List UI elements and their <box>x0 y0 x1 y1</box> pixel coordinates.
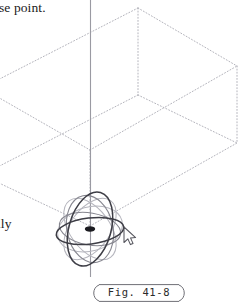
figure-canvas <box>0 0 242 303</box>
box-vertical-edges <box>90 8 237 226</box>
box-edge-top-front-left <box>0 88 90 150</box>
figure-page: se point. lly Fig. 41-8 <box>0 0 242 303</box>
figure-caption-label: Fig. 41-8 <box>87 283 191 301</box>
box-top-face <box>0 8 237 150</box>
box-edge-bottom-front-left <box>0 175 90 226</box>
nucleus-point <box>85 226 95 231</box>
box-edge-top-back-right <box>138 8 237 66</box>
box-edge-bottom-back-right <box>138 95 237 143</box>
figure-caption: Fig. 41-8 <box>87 283 191 301</box>
mouse-arrow-cursor <box>124 227 136 245</box>
text-fragment-top-partial: se point. <box>0 0 46 16</box>
box-bottom-face <box>0 95 237 226</box>
isometric-box-group <box>0 8 237 226</box>
cursor-arrow-shape <box>124 227 136 245</box>
box-edge-top-back-left <box>0 8 138 88</box>
text-fragment-left-partial: lly <box>0 216 12 232</box>
box-edge-bottom-back-left <box>0 95 138 175</box>
